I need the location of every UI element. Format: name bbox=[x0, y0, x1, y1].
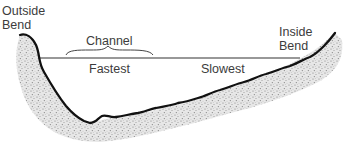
inside-bend-label-line2: Bend bbox=[279, 39, 312, 53]
inside-bend-label-line1: Inside bbox=[279, 25, 312, 39]
fastest-label: Fastest bbox=[89, 62, 130, 76]
channel-label: Channel bbox=[86, 34, 133, 48]
channel-cross-section bbox=[0, 0, 358, 147]
slowest-label: Slowest bbox=[201, 62, 245, 76]
inside-bend-label: Inside Bend bbox=[279, 25, 312, 53]
outside-bend-label: Outside Bend bbox=[2, 4, 45, 32]
outside-bend-label-line2: Bend bbox=[2, 18, 45, 32]
outside-bend-label-line1: Outside bbox=[2, 4, 45, 18]
